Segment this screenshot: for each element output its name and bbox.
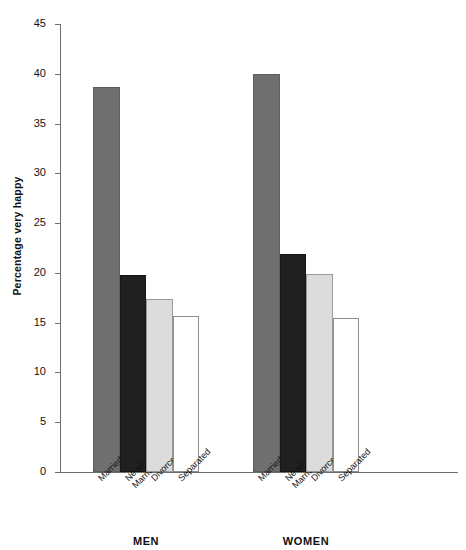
y-axis-tick: 30 bbox=[55, 173, 60, 174]
bar bbox=[253, 74, 280, 472]
y-axis-tick-label: 20 bbox=[34, 266, 46, 278]
y-axis-tick-label: 40 bbox=[34, 67, 46, 79]
y-axis-tick-label: 30 bbox=[34, 166, 46, 178]
group-label: MEN bbox=[93, 535, 199, 547]
y-axis-title-label: Percentage very happy bbox=[11, 176, 23, 295]
bar bbox=[173, 316, 200, 472]
y-axis-title: Percentage very happy bbox=[6, 0, 28, 472]
bar bbox=[146, 299, 173, 472]
y-axis-tick: 35 bbox=[55, 124, 60, 125]
y-axis-tick-label: 5 bbox=[40, 415, 46, 427]
y-axis-tick: 45 bbox=[55, 24, 60, 25]
y-axis-tick: 5 bbox=[55, 422, 60, 423]
y-axis-tick-label: 0 bbox=[40, 465, 46, 477]
plot-area: 454035302520151050MarriedNever MarriedDi… bbox=[60, 24, 458, 472]
group-label: WOMEN bbox=[253, 535, 359, 547]
bar bbox=[333, 318, 360, 472]
y-axis-tick: 25 bbox=[55, 223, 60, 224]
y-axis-tick-label: 35 bbox=[34, 117, 46, 129]
y-axis-tick-label: 10 bbox=[34, 365, 46, 377]
y-axis-tick-label: 25 bbox=[34, 216, 46, 228]
y-axis-tick: 0 bbox=[55, 472, 60, 473]
y-axis-tick-label: 15 bbox=[34, 316, 46, 328]
y-axis-tick: 15 bbox=[55, 323, 60, 324]
y-axis-tick: 10 bbox=[55, 372, 60, 373]
y-axis-line bbox=[60, 24, 61, 472]
bar bbox=[280, 254, 307, 472]
bar bbox=[306, 274, 333, 472]
bar bbox=[93, 87, 120, 472]
y-axis-tick-label: 45 bbox=[34, 17, 46, 29]
bar bbox=[120, 275, 147, 472]
y-axis-tick: 40 bbox=[55, 74, 60, 75]
bar-chart: Percentage very happy 454035302520151050… bbox=[0, 0, 466, 550]
y-axis-tick: 20 bbox=[55, 273, 60, 274]
